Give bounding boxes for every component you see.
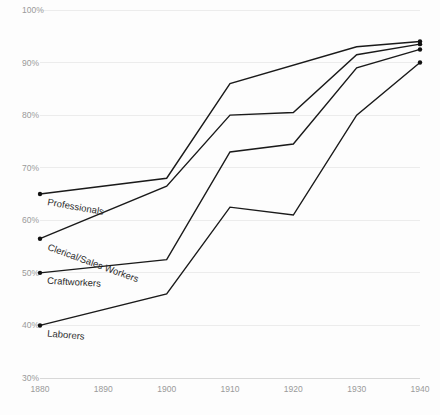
y-tick-label: 70% [22, 163, 39, 173]
series-endpoint-marker [418, 47, 422, 51]
series-endpoint-marker [38, 236, 42, 240]
y-tick-label: 60% [22, 215, 39, 225]
x-tick-label: 1880 [31, 384, 50, 394]
y-tick-label: 40% [22, 320, 39, 330]
y-tick-label: 30% [22, 373, 39, 383]
y-tick-label: 50% [22, 268, 39, 278]
gridlines [40, 10, 420, 378]
chart-canvas: 100%90%80%70%60%50%40%30% 18801890190019… [0, 0, 440, 415]
y-tick-label: 100% [22, 5, 44, 15]
series-label-professionals: Professionals [47, 196, 105, 217]
series-endpoint-marker [38, 323, 42, 327]
series-label-craftworkers: Craftworkers [47, 275, 102, 289]
series-endpoint-marker [38, 271, 42, 275]
series-line-professionals [40, 42, 420, 194]
series-label-laborers: Laborers [47, 327, 86, 341]
y-tick-label: 80% [22, 110, 39, 120]
series-endpoint-marker [418, 42, 422, 46]
x-axis-tick-labels: 1880189019001910192019301940 [31, 384, 430, 394]
x-tick-label: 1910 [221, 384, 240, 394]
line-chart: 100%90%80%70%60%50%40%30% 18801890190019… [0, 0, 440, 415]
y-tick-label: 90% [22, 58, 39, 68]
x-tick-label: 1900 [157, 384, 176, 394]
x-tick-label: 1890 [94, 384, 113, 394]
x-tick-label: 1930 [347, 384, 366, 394]
series-endpoint-marker [38, 192, 42, 196]
x-tick-label: 1940 [411, 384, 430, 394]
x-tick-label: 1920 [284, 384, 303, 394]
series-endpoint-marker [418, 60, 422, 64]
